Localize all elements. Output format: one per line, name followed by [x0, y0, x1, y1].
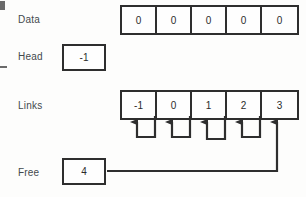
free-pointer-connector	[107, 122, 277, 171]
data-cell: 0	[122, 7, 157, 33]
scan-artifact-middle	[0, 66, 7, 68]
free-label: Free	[18, 167, 39, 178]
head-label: Head	[18, 51, 43, 62]
links-cell: 1	[192, 92, 227, 118]
links-cell: 3	[262, 92, 297, 118]
free-box: 4	[62, 158, 106, 185]
data-row-label: Data	[18, 14, 40, 25]
data-cell: 0	[157, 7, 192, 33]
links-array: -1 0 1 2 3	[120, 90, 299, 120]
links-cell: -1	[122, 92, 157, 118]
data-cell: 0	[262, 7, 297, 33]
data-array: 0 0 0 0 0	[120, 5, 299, 35]
linked-list-diagram: Data Head Links Free 0 0 0 0 0 -1 -1 0 1…	[0, 0, 306, 197]
links-cell: 0	[157, 92, 192, 118]
links-row-label: Links	[18, 100, 42, 111]
links-cell: 2	[227, 92, 262, 118]
data-cell: 0	[192, 7, 227, 33]
scan-artifact-top	[0, 1, 5, 10]
data-cell: 0	[227, 7, 262, 33]
head-box: -1	[62, 44, 106, 71]
